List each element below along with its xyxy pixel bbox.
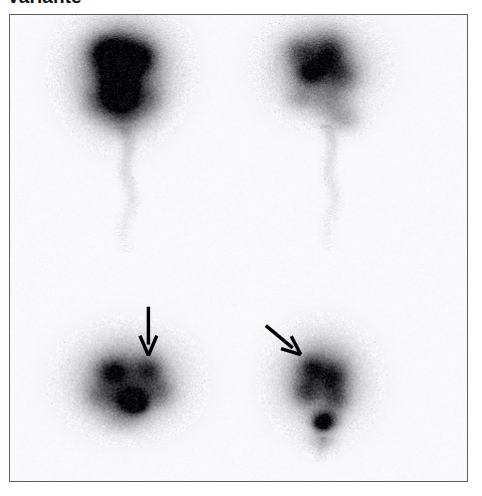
scintigraphy-image-frame (9, 14, 468, 482)
scintigraphy-scan-canvas (10, 15, 467, 481)
figure-title: Variante (7, 0, 82, 7)
